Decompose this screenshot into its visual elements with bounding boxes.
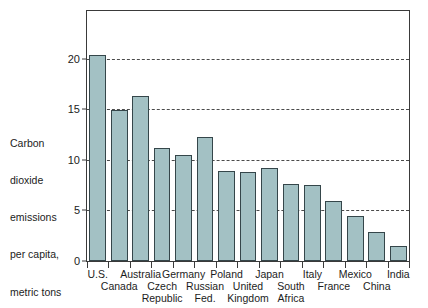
- y-axis-label-line-3: emissions: [10, 211, 82, 223]
- y-axis-label-line-2: dioxide: [10, 174, 82, 186]
- bars-layer: [87, 11, 409, 261]
- x-axis-label: Canada: [101, 280, 138, 292]
- x-axis-label: U.S.: [88, 268, 108, 280]
- x-axis-label: Germany: [162, 268, 205, 280]
- bar: [283, 184, 300, 261]
- x-axis-label: China: [363, 280, 390, 292]
- bar: [154, 148, 171, 261]
- x-axis-label: Poland: [210, 268, 243, 280]
- x-axis-label: Africa: [278, 292, 305, 304]
- x-axis-label: India: [387, 268, 410, 280]
- y-axis-tick-label: 0: [74, 255, 80, 267]
- x-axis-label: Japan: [255, 268, 284, 280]
- bar: [197, 137, 214, 261]
- bar: [368, 232, 385, 261]
- x-axis-label: Italy: [303, 268, 322, 280]
- bar: [132, 96, 149, 261]
- x-axis-label: Russian: [186, 280, 224, 292]
- y-axis-label-line-4: per capita,: [10, 248, 82, 260]
- bar: [261, 168, 278, 261]
- bar: [304, 185, 321, 261]
- chart-plot-area: 05101520: [86, 10, 410, 262]
- x-axis-label: Mexico: [339, 268, 372, 280]
- x-axis-labels: U.S.CanadaAustraliaCzechRepublicGermanyR…: [86, 268, 410, 308]
- bar: [89, 55, 106, 261]
- y-axis-tick-label: 5: [74, 204, 80, 216]
- x-axis-label: United: [233, 280, 263, 292]
- bar: [111, 110, 128, 261]
- bar: [218, 171, 235, 261]
- y-axis-label-line-1: Carbon: [10, 137, 82, 149]
- y-axis-tick-label: 10: [68, 154, 80, 166]
- bar: [325, 201, 342, 261]
- x-axis-label: Australia: [120, 268, 161, 280]
- y-axis-tick-label: 20: [68, 53, 80, 65]
- bar: [347, 216, 364, 261]
- y-axis-label: Carbon dioxide emissions per capita, met…: [10, 112, 82, 308]
- bar: [240, 172, 257, 261]
- bar: [390, 246, 407, 261]
- x-axis-label: Kingdom: [227, 292, 268, 304]
- y-axis-label-line-5: metric tons: [10, 286, 82, 298]
- x-axis-label: France: [318, 280, 351, 292]
- y-axis-tick-label: 15: [68, 103, 80, 115]
- bar: [175, 155, 192, 261]
- x-axis-label: Republic: [142, 292, 183, 304]
- x-axis-label: South: [277, 280, 304, 292]
- x-axis-label: Fed.: [195, 292, 216, 304]
- x-axis-label: Czech: [147, 280, 177, 292]
